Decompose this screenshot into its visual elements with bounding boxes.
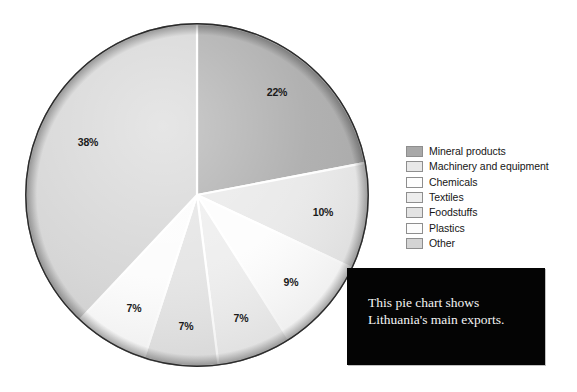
legend-item[interactable]: Textiles [406, 190, 576, 205]
legend-item-label: Chemicals [429, 177, 478, 188]
legend-item[interactable]: Plastics [406, 220, 576, 235]
pie-chart: 22%10%9%7%7%7%38% [25, 21, 371, 371]
legend-item-label: Mineral products [429, 146, 506, 157]
caption-line-2: Lithuania's main exports. [368, 311, 538, 328]
chart-legend: Mineral productsMachinery and equipmentC… [406, 144, 576, 251]
pie-rim-shading [25, 23, 369, 367]
pie-slice-label: 38% [78, 136, 99, 148]
pie-slice-label: 7% [179, 320, 195, 332]
legend-item-label: Plastics [429, 223, 465, 234]
legend-item-label: Other [429, 238, 455, 249]
caption-text: This pie chart shows Lithuania's main ex… [368, 294, 538, 328]
chart-canvas: 22%10%9%7%7%7%38% Mineral productsMachin… [0, 0, 577, 392]
legend-color-swatch [406, 161, 423, 172]
pie-slice-label: 22% [267, 86, 288, 98]
pie-slice-label: 7% [127, 302, 143, 314]
caption-box: This pie chart shows Lithuania's main ex… [347, 268, 545, 365]
legend-item[interactable]: Machinery and equipment [406, 159, 576, 174]
legend-color-swatch [406, 238, 423, 249]
legend-item-label: Foodstuffs [429, 207, 477, 218]
legend-color-swatch [406, 207, 423, 218]
pie-chart-svg: 22%10%9%7%7%7%38% [25, 21, 371, 371]
legend-item[interactable]: Foodstuffs [406, 205, 576, 220]
legend-item[interactable]: Chemicals [406, 175, 576, 190]
legend-color-swatch [406, 192, 423, 203]
legend-color-swatch [406, 177, 423, 188]
legend-item[interactable]: Mineral products [406, 144, 576, 159]
legend-color-swatch [406, 223, 423, 234]
pie-slice-label: 9% [284, 276, 300, 288]
caption-line-1: This pie chart shows [368, 294, 538, 311]
legend-item-label: Textiles [429, 192, 464, 203]
legend-item[interactable]: Other [406, 236, 576, 251]
pie-slice-label: 7% [234, 312, 250, 324]
pie-slice-label: 10% [313, 206, 334, 218]
legend-color-swatch [406, 146, 423, 157]
legend-item-label: Machinery and equipment [429, 161, 549, 172]
